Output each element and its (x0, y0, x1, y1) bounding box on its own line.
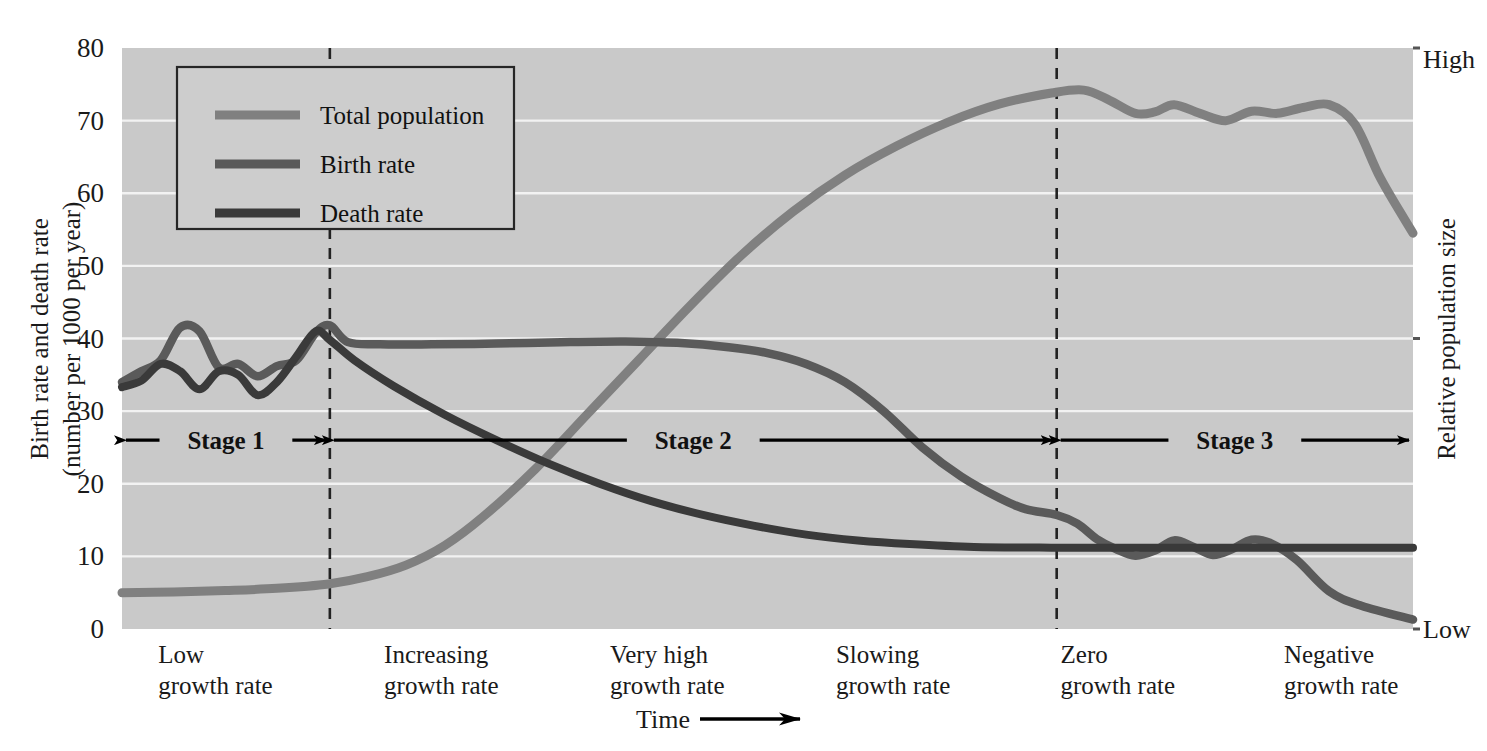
stage-label-2: Stage 2 (655, 427, 732, 454)
category-label-0-line1: Low (158, 641, 204, 668)
legend-label-0: Total population (320, 102, 485, 129)
category-label-1-line1: Increasing (384, 641, 489, 668)
category-label-0-line2: growth rate (158, 672, 273, 699)
category-label-4-line1: Zero (1061, 641, 1108, 668)
y-tick-label: 80 (77, 33, 104, 63)
category-label-2-line2: growth rate (610, 672, 725, 699)
category-label-1-line2: growth rate (384, 672, 499, 699)
y-tick-label: 70 (77, 106, 104, 136)
category-label-5-line1: Negative (1284, 641, 1374, 668)
y-axis-title-line1: Birth rate and death rate (26, 218, 53, 460)
category-label-5-line2: growth rate (1284, 672, 1399, 699)
stage-label-1: Stage 1 (187, 427, 264, 454)
x-axis-category-labels: Lowgrowth rateIncreasinggrowth rateVery … (158, 641, 1398, 699)
chart-svg: 01020304050607080 Stage 1Stage 2Stage 3 … (0, 0, 1487, 751)
category-label-3-line1: Slowing (836, 641, 920, 668)
y-axis-title-line2: (number per 1000 per year) (58, 202, 86, 477)
y-tick-label: 10 (77, 541, 104, 571)
legend-label-2: Death rate (320, 200, 423, 227)
x-axis-title: Time (636, 705, 690, 734)
category-label-4-line2: growth rate (1061, 672, 1176, 699)
y2-high-label: High (1423, 45, 1475, 74)
y2-axis-title: Relative population size (1433, 218, 1460, 460)
category-label-3-line2: growth rate (836, 672, 951, 699)
y2-low-label: Low (1423, 615, 1471, 644)
demographic-transition-figure: 01020304050607080 Stage 1Stage 2Stage 3 … (0, 0, 1487, 751)
stage-label-3: Stage 3 (1196, 427, 1273, 454)
category-label-2-line1: Very high (610, 641, 708, 668)
legend-label-1: Birth rate (320, 151, 415, 178)
chart-legend: Total populationBirth rateDeath rate (177, 67, 514, 229)
y-tick-label: 0 (91, 614, 105, 644)
